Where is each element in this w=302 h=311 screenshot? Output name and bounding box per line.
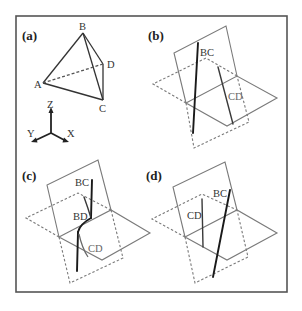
vertex-B-label: B [79,21,86,32]
label-CD: CD [228,91,243,102]
label-BD: BD [73,211,88,222]
panel-c-label: (c) [22,168,36,183]
panel-a: (a) B D A C Z Y X [22,21,115,143]
label-BC: BC [75,177,89,188]
line-BD-lower [77,232,78,271]
vertical-plane-upper [47,160,111,237]
panel-d: (d) CD BC [146,162,277,283]
coordinate-axes-icon [31,107,69,143]
panel-a-label: (a) [22,28,37,43]
figure-canvas: (a) B D A C Z Y X (b) [0,0,302,311]
edge-AD-hidden [43,64,103,83]
edge-AC [43,83,103,100]
edge-AB [43,33,83,83]
line-BC [91,180,92,218]
line-CD [79,234,88,257]
label-CD: CD [187,210,202,221]
label-CD: CD [88,243,103,254]
panel-b: (b) BC CD [148,26,277,148]
panel-d-label: (d) [146,168,162,183]
vertex-A-label: A [34,79,42,90]
panel-b-label: (b) [148,28,164,43]
edge-BD [83,33,103,64]
label-BC: BC [213,188,227,199]
horizontal-plane-back [26,193,111,237]
line-CD [202,199,203,247]
tetrahedron [43,33,103,100]
vertex-D-label: D [107,59,115,70]
vertex-C-label: C [99,103,106,114]
label-BC: BC [200,47,214,58]
panel-c: (c) BC BD CD [22,160,150,283]
axis-x-label: X [67,128,75,139]
line-BC [193,43,198,133]
axis-y-label: Y [27,128,35,139]
axis-z-label: Z [47,99,53,110]
